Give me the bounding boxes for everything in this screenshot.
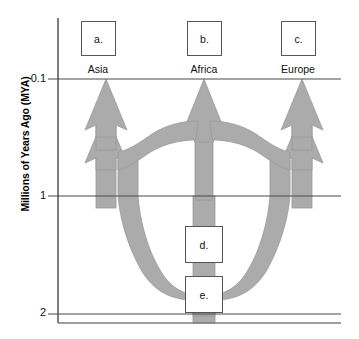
region-label-europe: Europe xyxy=(281,63,315,75)
node-box-e[interactable]: e. xyxy=(185,276,223,313)
node-box-e-label: e. xyxy=(200,289,209,301)
node-box-a-label: a. xyxy=(94,33,103,45)
node-box-c-label: c. xyxy=(294,33,302,45)
node-box-d[interactable]: d. xyxy=(185,226,223,263)
node-box-b[interactable]: b. xyxy=(187,21,222,56)
diagram-canvas: Millions of Years Ago (MYA) 0.1 1 2 xyxy=(0,0,359,339)
region-label-asia: Asia xyxy=(88,63,108,75)
node-box-b-label: b. xyxy=(200,33,209,45)
region-label-africa: Africa xyxy=(191,63,218,75)
node-box-d-label: d. xyxy=(200,239,209,251)
node-box-c[interactable]: c. xyxy=(281,21,316,56)
node-box-a[interactable]: a. xyxy=(81,21,116,56)
